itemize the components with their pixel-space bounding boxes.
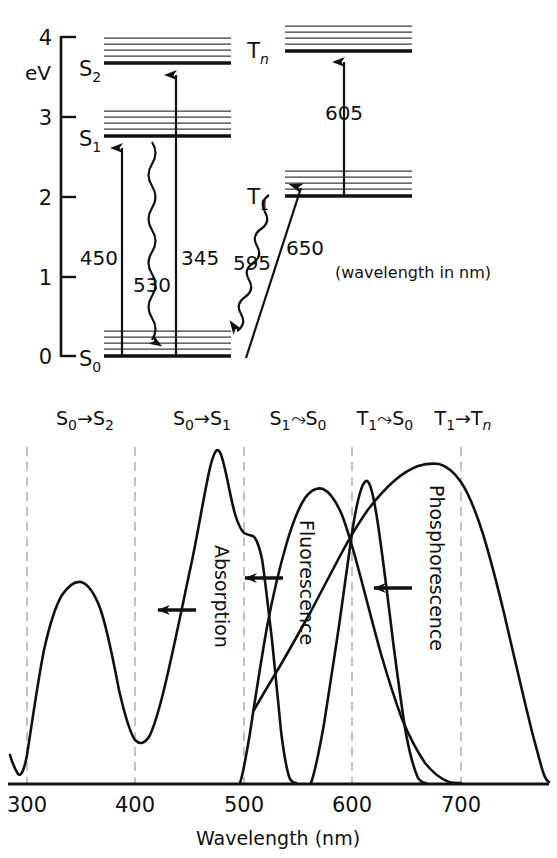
- annotation-T1-S0: T1⤳S0: [356, 407, 414, 433]
- x-tick-label-600: 600: [332, 793, 372, 817]
- transition-label-450: 450: [80, 246, 118, 270]
- energy-tick-label-4: 4: [39, 26, 52, 50]
- state-label-S0: S0: [79, 347, 101, 375]
- state-T1: T1: [246, 171, 412, 213]
- wavelength-unit-note: (wavelength in nm): [335, 263, 491, 282]
- transition-label-605: 650: [286, 236, 324, 260]
- transition-650: 605: [325, 62, 363, 196]
- transition-label-650: 605: [325, 101, 363, 125]
- annotation-T1-Tn: T1→Tn: [434, 407, 492, 433]
- energy-axis-label: eV: [25, 61, 51, 85]
- chart-curve-labels: Absorption Fluorescence Phosphorescence: [211, 485, 448, 651]
- chart-transition-annotations: S0→S2 S0→S1 S1⤳S0 T1⤳S0 T1→Tn: [56, 407, 491, 433]
- transition-530: 530: [133, 142, 171, 340]
- x-tick-label-400: 400: [115, 793, 155, 817]
- x-tick-label-700: 700: [441, 793, 481, 817]
- curve-phosphorescence: [311, 481, 426, 783]
- state-Tn: Tn: [246, 26, 412, 67]
- state-label-S2: S2: [79, 57, 101, 85]
- curve-label-phosphorescence: Phosphorescence: [426, 485, 448, 651]
- state-S0: S0: [79, 331, 231, 375]
- chart-curves: [10, 450, 549, 783]
- state-label-S1: S1: [79, 127, 101, 155]
- energy-tick-label-0: 0: [39, 345, 52, 369]
- state-S2: S2: [79, 38, 231, 85]
- curve-label-fluorescence: Fluorescence: [296, 520, 318, 645]
- energy-tick-label-1: 1: [39, 266, 52, 290]
- chart-pointer-arrows: [158, 578, 412, 610]
- energy-axis: 4 3 2 1 0 eV: [25, 26, 76, 369]
- x-axis-title: Wavelength (nm): [196, 827, 360, 849]
- figure-svg: 4 3 2 1 0 eV S2 S1: [0, 0, 557, 858]
- energy-tick-label-3: 3: [39, 106, 52, 130]
- transition-label-345: 345: [181, 246, 219, 270]
- annotation-S0-S1: S0→S1: [173, 407, 231, 433]
- transition-450: 450: [80, 148, 122, 356]
- spectra-chart: S0→S2 S0→S1 S1⤳S0 T1⤳S0 T1→Tn Absorp: [7, 407, 549, 849]
- curve-absorption: [10, 450, 296, 783]
- state-label-Tn: Tn: [246, 39, 269, 67]
- x-tick-label-300: 300: [7, 793, 47, 817]
- energy-tick-label-2: 2: [39, 186, 52, 210]
- curve-label-absorption: Absorption: [211, 545, 233, 648]
- transition-label-530: 530: [133, 273, 171, 297]
- x-tick-label-500: 500: [224, 793, 264, 817]
- annotation-S1-S0: S1⤳S0: [270, 407, 327, 433]
- chart-x-axis: 300 400 500 600 700 Wavelength (nm): [7, 784, 549, 849]
- chart-gridlines: [27, 447, 461, 784]
- annotation-S0-S2: S0→S2: [56, 407, 114, 433]
- figure-root: 4 3 2 1 0 eV S2 S1: [0, 0, 557, 858]
- jablonski-diagram: 4 3 2 1 0 eV S2 S1: [25, 26, 491, 375]
- transition-arrow-530: [149, 142, 156, 340]
